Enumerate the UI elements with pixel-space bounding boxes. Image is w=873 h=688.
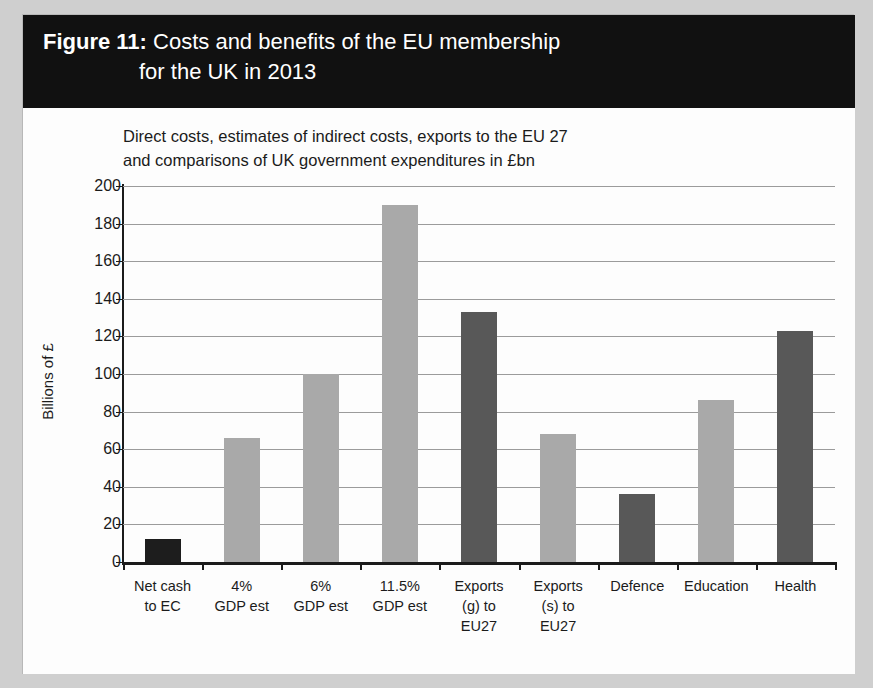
- figure-title-line-2: for the UK in 2013: [139, 57, 835, 87]
- x-tick-mark: [519, 562, 521, 570]
- y-tick-label: 140: [73, 290, 121, 308]
- x-category-label-line: Defence: [598, 576, 677, 596]
- y-tick-label: 120: [73, 327, 121, 345]
- x-category-label-line: GDP est: [360, 596, 439, 616]
- x-category-label-line: 11.5%: [360, 576, 439, 596]
- x-category-label-line: Exports: [439, 576, 518, 596]
- figure-title-line-1: Figure 11: Costs and benefits of the EU …: [43, 27, 835, 57]
- bar: [224, 438, 260, 562]
- x-category-label: 11.5%GDP est: [360, 576, 439, 616]
- y-tick-label: 160: [73, 252, 121, 270]
- y-tick-label: 0: [73, 553, 121, 571]
- x-category-label: 4%GDP est: [202, 576, 281, 616]
- x-tick-mark: [756, 562, 758, 570]
- bar: [303, 374, 339, 562]
- x-category-label-line: Exports: [519, 576, 598, 596]
- x-category-label: Health: [756, 576, 835, 596]
- plot-wrapper: Billions of £ 20018016014012010080604020…: [23, 108, 855, 674]
- gridline: [123, 186, 835, 187]
- x-category-label: Exports(s) toEU27: [519, 576, 598, 636]
- x-category-label-line: Health: [756, 576, 835, 596]
- x-tick-mark: [123, 562, 125, 570]
- x-tick-mark: [439, 562, 441, 570]
- y-tick-label: 20: [73, 515, 121, 533]
- x-tick-mark: [281, 562, 283, 570]
- y-tick-label: 60: [73, 440, 121, 458]
- x-category-label-line: EU27: [439, 616, 518, 636]
- bar: [619, 494, 655, 562]
- gridline: [123, 261, 835, 262]
- x-category-label: Defence: [598, 576, 677, 596]
- x-tick-mark: [202, 562, 204, 570]
- figure-number-label: Figure 11:: [43, 29, 147, 54]
- x-category-label-line: (s) to: [519, 596, 598, 616]
- x-category-label-line: Education: [677, 576, 756, 596]
- bar: [382, 205, 418, 562]
- x-category-label-line: to EC: [123, 596, 202, 616]
- x-category-label-line: Net cash: [123, 576, 202, 596]
- x-category-label: Education: [677, 576, 756, 596]
- x-category-label-line: 6%: [281, 576, 360, 596]
- y-tick-label: 180: [73, 215, 121, 233]
- gridline: [123, 224, 835, 225]
- x-tick-mark: [677, 562, 679, 570]
- bar: [461, 312, 497, 562]
- x-category-label: 6%GDP est: [281, 576, 360, 616]
- plot-area: 200180160140120100806040200 Net cashto E…: [123, 186, 835, 562]
- x-category-label: Net cashto EC: [123, 576, 202, 616]
- gridline: [123, 562, 835, 563]
- x-category-label-line: 4%: [202, 576, 281, 596]
- x-category-label-line: EU27: [519, 616, 598, 636]
- figure-title-text: Costs and benefits of the EU membership: [153, 29, 560, 54]
- figure-title-banner: Figure 11: Costs and benefits of the EU …: [23, 15, 855, 108]
- y-tick-label: 100: [73, 365, 121, 383]
- y-tick-label: 80: [73, 403, 121, 421]
- figure-panel: Figure 11: Costs and benefits of the EU …: [22, 14, 854, 674]
- bar: [777, 331, 813, 562]
- x-category-label: Exports(g) toEU27: [439, 576, 518, 636]
- y-tick-label: 40: [73, 478, 121, 496]
- x-tick-mark: [598, 562, 600, 570]
- gridline: [123, 299, 835, 300]
- y-tick-label: 200: [73, 177, 121, 195]
- x-tick-mark: [360, 562, 362, 570]
- x-category-label-line: GDP est: [202, 596, 281, 616]
- bar: [540, 434, 576, 562]
- chart-body: Direct costs, estimates of indirect cost…: [23, 108, 855, 674]
- y-axis-title: Billions of £: [39, 292, 56, 472]
- bar: [698, 400, 734, 562]
- bar: [145, 539, 181, 562]
- x-category-label-line: (g) to: [439, 596, 518, 616]
- x-tick-mark: [835, 562, 837, 570]
- x-category-label-line: GDP est: [281, 596, 360, 616]
